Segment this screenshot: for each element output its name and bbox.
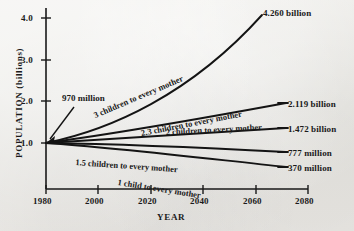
projection-curves bbox=[46, 15, 286, 167]
x-tick-label-2020: 2020 bbox=[138, 196, 157, 206]
curve-1p5-children bbox=[46, 143, 286, 152]
figure-population-projection: 4.0 3.0 2.0 1.0 POPULATION (billions) 19… bbox=[0, 0, 354, 231]
end-label-leaders bbox=[278, 103, 288, 167]
x-tick-label-2060: 2060 bbox=[243, 196, 262, 206]
end-label-2-children: 1.472 billion bbox=[288, 124, 336, 134]
x-tick-label-2080: 2080 bbox=[295, 196, 314, 206]
y-axis-title: POPULATION (billions) bbox=[14, 48, 24, 158]
end-label-2p3-children: 2.119 billion bbox=[288, 99, 336, 109]
end-label-3-children: 4.260 billion bbox=[263, 8, 311, 18]
end-label-1-child: 370 million bbox=[288, 163, 332, 173]
y-tick-label-4: 4.0 bbox=[21, 13, 33, 23]
x-tick-label-1980: 1980 bbox=[33, 196, 52, 206]
x-axis-title: YEAR bbox=[157, 212, 185, 222]
x-tick-label-2000: 2000 bbox=[85, 196, 104, 206]
origin-callout-label: 970 million bbox=[62, 93, 105, 103]
end-label-1p5-children: 777 million bbox=[288, 148, 332, 158]
